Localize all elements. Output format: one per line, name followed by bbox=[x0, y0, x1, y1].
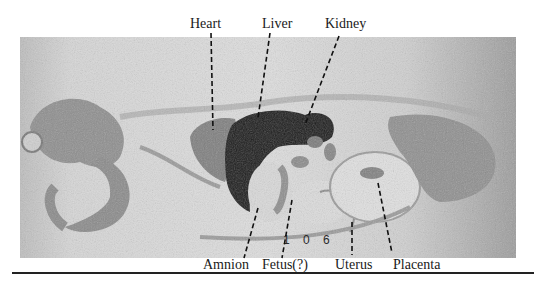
figure: 1 0 6 Heart Liver Kidney Amnion Fetus(?)… bbox=[0, 0, 534, 289]
micrograph-photo bbox=[20, 37, 516, 258]
label-fetus: Fetus(?) bbox=[262, 257, 308, 273]
label-uterus: Uterus bbox=[335, 257, 372, 273]
label-heart: Heart bbox=[190, 16, 221, 32]
label-placenta: Placenta bbox=[393, 257, 440, 273]
label-liver: Liver bbox=[262, 16, 292, 32]
plate-number: 1 0 6 bbox=[283, 233, 335, 247]
label-kidney: Kidney bbox=[325, 16, 366, 32]
horizontal-rule bbox=[12, 272, 534, 274]
label-amnion: Amnion bbox=[203, 257, 249, 273]
